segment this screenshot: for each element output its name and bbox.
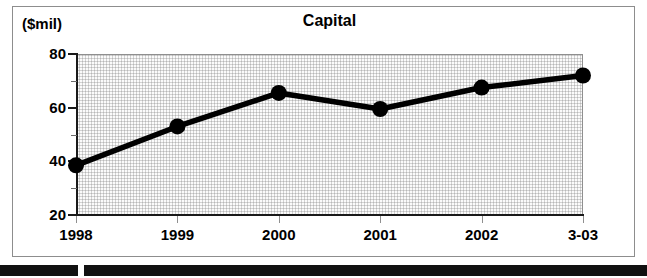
y-minor-tick-50	[71, 135, 77, 136]
y-tick-label-60: 60	[22, 99, 66, 116]
bottom-rule	[0, 265, 647, 276]
y-minor-tick-70	[71, 81, 77, 82]
x-tick-label-1999: 1999	[161, 226, 194, 243]
x-tick-2001	[380, 216, 381, 223]
x-tick-label-2000: 2000	[262, 226, 295, 243]
chart-title: Capital	[76, 12, 583, 30]
x-tick-label-3-03: 3-03	[568, 226, 598, 243]
y-tick-40	[68, 160, 77, 162]
x-tick-1999	[177, 216, 178, 223]
x-tick-2002	[482, 216, 483, 223]
plot-area	[76, 54, 583, 215]
x-axis-line	[76, 214, 584, 216]
x-tick-3-03	[583, 216, 584, 223]
y-tick-label-40: 40	[22, 152, 66, 169]
y-tick-label-80: 80	[22, 45, 66, 62]
y-minor-tick-30	[71, 188, 77, 189]
x-tick-2000	[279, 216, 280, 223]
x-tick-label-2002: 2002	[465, 226, 498, 243]
y-tick-80	[68, 53, 77, 55]
chart-figure: ($mil) Capital 80604020 1998199920002001…	[0, 0, 647, 278]
bottom-rule-notch	[78, 265, 84, 276]
x-tick-1998	[76, 216, 77, 223]
x-tick-label-1998: 1998	[59, 226, 92, 243]
y-tick-label-20: 20	[22, 206, 66, 223]
y-tick-60	[68, 107, 77, 109]
x-tick-label-2001: 2001	[364, 226, 397, 243]
